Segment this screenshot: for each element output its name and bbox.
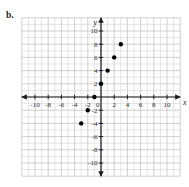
y-tick-label: -10	[88, 159, 98, 167]
origin-label: 0	[96, 101, 100, 109]
y-tick-label: -8	[92, 146, 98, 154]
worksheet-page: Linear? (4, 14) b. -10-8-6-4-2246810-10-…	[0, 0, 189, 187]
y-tick-label: 6	[94, 54, 98, 62]
data-point	[119, 42, 123, 46]
data-point	[112, 55, 116, 59]
x-tick-label: 6	[139, 101, 143, 109]
x-tick-label: 8	[152, 101, 156, 109]
y-tick-label: -6	[92, 133, 98, 141]
x-tick-label: -6	[58, 101, 64, 109]
x-tick-label: -8	[45, 101, 51, 109]
data-point	[79, 121, 83, 125]
y-tick-label: 4	[94, 67, 98, 75]
x-tick-label: -2	[85, 101, 91, 109]
y-axis-label: y	[92, 18, 97, 27]
x-tick-label: 4	[126, 101, 130, 109]
coordinate-plane: -10-8-6-4-2246810-10-8-6-4-22468100xy	[0, 0, 189, 187]
y-tick-label: 2	[94, 80, 98, 88]
y-tick-label: 10	[91, 27, 99, 35]
x-tick-label: 10	[164, 101, 172, 109]
data-point	[99, 82, 103, 86]
x-tick-label: -10	[30, 101, 40, 109]
x-tick-label: 2	[112, 101, 116, 109]
data-point	[105, 68, 109, 72]
y-tick-label: -4	[92, 120, 98, 128]
data-point	[92, 95, 96, 99]
y-tick-label: 8	[94, 41, 98, 49]
data-point	[86, 108, 90, 112]
x-axis-label: x	[182, 98, 187, 107]
x-tick-label: -4	[72, 101, 78, 109]
